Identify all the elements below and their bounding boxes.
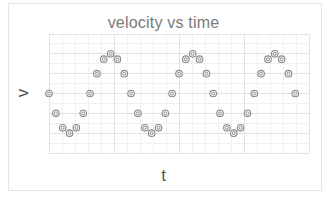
data-point-marker xyxy=(141,125,148,132)
data-point-marker xyxy=(100,56,107,63)
data-point-marker xyxy=(271,51,278,58)
data-point-marker xyxy=(237,125,244,132)
data-point-marker xyxy=(258,70,265,77)
data-point-marker xyxy=(265,56,272,63)
data-point-marker xyxy=(244,110,251,117)
data-point-marker xyxy=(53,110,60,117)
data-point-marker xyxy=(251,90,258,97)
data-point-marker xyxy=(155,125,162,132)
data-point-marker xyxy=(121,70,128,77)
data-point-marker xyxy=(114,56,121,63)
data-point-marker xyxy=(176,70,183,77)
data-point-marker xyxy=(285,70,292,77)
data-point-marker xyxy=(135,110,142,117)
data-point-marker xyxy=(203,70,210,77)
data-point-marker xyxy=(148,130,155,137)
data-point-marker xyxy=(46,90,53,97)
data-point-marker xyxy=(169,90,176,97)
data-point-marker xyxy=(162,110,169,117)
data-point-marker xyxy=(292,90,299,97)
data-point-marker xyxy=(224,125,231,132)
data-point-marker xyxy=(80,110,87,117)
data-point-marker xyxy=(59,125,66,132)
data-point-marker xyxy=(196,56,203,63)
data-point-marker xyxy=(107,51,114,58)
data-point-marker xyxy=(183,56,190,63)
data-point-marker xyxy=(94,70,101,77)
data-point-marker xyxy=(87,90,94,97)
data-point-marker xyxy=(210,90,217,97)
data-point-marker xyxy=(230,130,237,137)
data-point-marker xyxy=(278,56,285,63)
data-point-marker xyxy=(189,51,196,58)
data-point-marker xyxy=(73,125,80,132)
data-point-marker xyxy=(128,90,135,97)
data-point-marker xyxy=(66,130,73,137)
plot-area xyxy=(0,0,327,199)
data-point-marker xyxy=(217,110,224,117)
